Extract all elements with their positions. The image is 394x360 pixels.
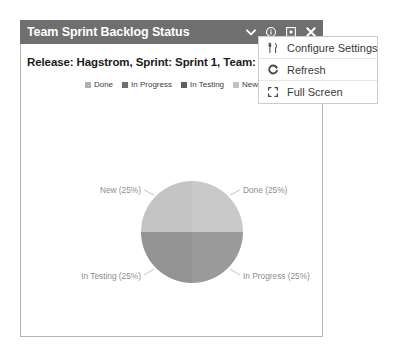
legend-swatch-in-testing: [181, 82, 187, 88]
pie-label-in-progress: In Progress (25%): [243, 271, 310, 281]
legend-item-new[interactable]: New: [233, 80, 258, 89]
legend-label-new: New: [242, 80, 258, 89]
pie-label-in-testing: In Testing (25%): [81, 271, 141, 281]
chevron-down-icon[interactable]: [244, 26, 257, 39]
pie-slice-in-testing[interactable]: [141, 232, 192, 283]
legend-label-done: Done: [94, 80, 113, 89]
pie-label-done: Done (25%): [243, 185, 288, 195]
legend-swatch-in-progress: [122, 82, 128, 88]
menu-item-label: Refresh: [287, 64, 326, 76]
pie-slice-done[interactable]: [192, 181, 243, 232]
legend-swatch-done: [85, 82, 91, 88]
refresh-icon: [266, 63, 280, 77]
menu-item-label: Configure Settings: [287, 42, 378, 54]
legend-item-in-progress[interactable]: In Progress: [122, 80, 172, 89]
pie-chart-svg: Done (25%) In Progress (25%) In Testing …: [41, 64, 344, 357]
pie-chart-plot-area: Done (25%) In Progress (25%) In Testing …: [41, 64, 344, 357]
utensils-icon: [266, 41, 280, 55]
leader-line-in-testing: [144, 269, 154, 275]
page-title: Team Sprint Backlog Status: [27, 25, 244, 39]
menu-item-label: Full Screen: [287, 86, 343, 98]
legend-item-in-testing[interactable]: In Testing: [181, 80, 224, 89]
context-menu: Configure Settings Refresh Full Screen: [258, 36, 378, 104]
legend-label-in-testing: In Testing: [190, 80, 224, 89]
leader-line-done: [230, 190, 240, 195]
leader-line-new: [144, 190, 154, 195]
fullscreen-icon: [266, 85, 280, 99]
chart-subtitle: Release: Hagstrom, Sprint: Sprint 1, Tea…: [27, 56, 295, 68]
menu-item-full-screen[interactable]: Full Screen: [259, 81, 377, 103]
menu-item-refresh[interactable]: Refresh: [259, 59, 377, 81]
legend-item-done[interactable]: Done: [85, 80, 113, 89]
legend-swatch-new: [233, 82, 239, 88]
menu-item-configure-settings[interactable]: Configure Settings: [259, 37, 377, 59]
pie-slice-in-progress[interactable]: [192, 232, 243, 283]
pie-slice-new[interactable]: [141, 181, 192, 232]
legend-label-in-progress: In Progress: [131, 80, 172, 89]
leader-line-in-progress: [230, 269, 240, 275]
pie-label-new: New (25%): [100, 185, 141, 195]
